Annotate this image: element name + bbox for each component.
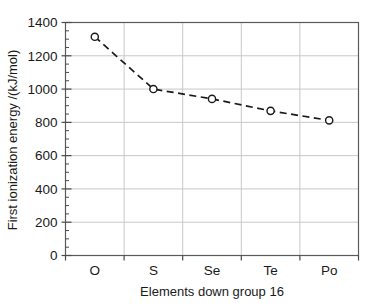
x-tick-label: S bbox=[149, 263, 158, 278]
y-tick-label: 1200 bbox=[27, 49, 57, 64]
y-axis-title: First ionization energy /(kJ/mol) bbox=[5, 50, 20, 231]
x-tick-label: Te bbox=[263, 263, 277, 278]
y-tick-label: 0 bbox=[50, 248, 58, 263]
y-tick-label: 1400 bbox=[27, 15, 57, 30]
y-tick-label: 1000 bbox=[27, 82, 57, 97]
data-point-O bbox=[91, 33, 98, 40]
x-axis-title: Elements down group 16 bbox=[140, 284, 284, 299]
y-tick-label: 600 bbox=[35, 148, 58, 163]
y-tick-label: 200 bbox=[35, 215, 58, 230]
ionization-energy-line-chart: 0200400600800100012001400 OSSeTePo First… bbox=[0, 0, 376, 306]
y-tick-label: 400 bbox=[35, 182, 58, 197]
x-tick-label: Po bbox=[321, 263, 338, 278]
x-tick-label: O bbox=[90, 263, 101, 278]
data-point-Te bbox=[267, 107, 274, 114]
data-point-Se bbox=[208, 95, 215, 102]
y-tick-label: 800 bbox=[35, 115, 58, 130]
data-point-Po bbox=[326, 117, 333, 124]
chart-figure: 0200400600800100012001400 OSSeTePo First… bbox=[0, 0, 376, 306]
data-point-S bbox=[150, 85, 157, 92]
x-tick-label: Se bbox=[204, 263, 221, 278]
